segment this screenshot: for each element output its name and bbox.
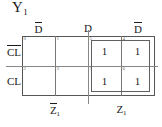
kmap-cell-1: 1 — [55, 36, 88, 66]
kmap-cell-4: 4 1 — [121, 36, 154, 66]
bottom-label-z1: Z1 — [88, 103, 155, 117]
kmap-cell-3: 3 — [55, 66, 88, 96]
kmap-cell-2: 2 — [22, 66, 55, 96]
kmap-cell-7: 7 1 — [88, 66, 121, 96]
kmap-cell-5: 5 1 — [88, 36, 121, 66]
bottom-label-z1-subscript: 1 — [123, 109, 127, 117]
column-header-2-label: D — [134, 22, 142, 35]
kmap-cell-0: 0 — [22, 36, 55, 66]
column-header-0: D — [22, 22, 55, 35]
kmap-cell-6-value: 1 — [121, 66, 154, 96]
column-header-0-label: D — [35, 22, 43, 35]
row-label-cl-text: CL — [7, 75, 21, 87]
row-label-not-cl: CL — [0, 45, 21, 58]
kmap-cell-0-value — [22, 36, 55, 66]
bottom-label-not-z1-subscript: 1 — [57, 110, 61, 118]
kmap-cell-5-value: 1 — [88, 36, 121, 66]
column-header-2: D — [121, 22, 155, 35]
figure-title: Y1 — [12, 0, 28, 17]
bottom-label-not-z1-text: Z — [50, 103, 57, 116]
figure-title-text: Y — [12, 0, 23, 15]
row-label-not-cl-text: CL — [7, 45, 21, 58]
kmap-cell-3-value — [55, 66, 88, 96]
kmap-cell-6: 6 1 — [121, 66, 154, 96]
bottom-label-not-z1: Z1 — [22, 103, 88, 118]
kmap-cell-4-value: 1 — [121, 36, 154, 66]
kmap-cell-1-value — [55, 36, 88, 66]
kmap-cell-7-value: 1 — [88, 66, 121, 96]
kmap-cell-2-value — [22, 66, 55, 96]
karnaugh-map-figure: Y1 D D D CL CL 0 1 5 1 4 1 2 — [0, 0, 162, 127]
row-label-cl: CL — [0, 75, 21, 87]
figure-title-subscript: 1 — [23, 7, 28, 17]
